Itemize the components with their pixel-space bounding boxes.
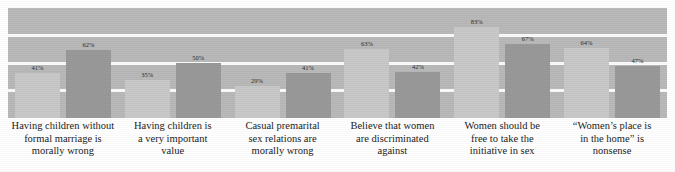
bar-g1-s0: [125, 80, 170, 119]
category-label-1: Having children isa very importantvalue: [118, 120, 228, 158]
category-label-4-line-1: free to take the: [447, 133, 557, 146]
category-label-5: “Women’s place isin the home” isnonsense: [557, 120, 667, 158]
bar-g4-s1: [505, 44, 550, 118]
category-label-2: Casual premaritalsex relations aremorall…: [228, 120, 338, 158]
bar-g3-s1: [395, 72, 440, 118]
bar-g2-s0: [235, 86, 280, 118]
bar-value-label-g5-s0: 64%: [557, 39, 617, 47]
category-label-0-line-2: morally wrong: [8, 145, 118, 158]
category-axis-labels: Having children withoutformal marriage i…: [8, 120, 667, 170]
bar-value-label-g1-s1: 50%: [168, 54, 228, 62]
category-label-1-line-0: Having children is: [118, 120, 228, 133]
category-label-0: Having children withoutformal marriage i…: [8, 120, 118, 158]
bar-chart: 41%62%35%50%29%41%63%42%83%67%64%47% Hav…: [0, 0, 675, 172]
category-label-5-line-2: nonsense: [557, 145, 667, 158]
category-label-0-line-0: Having children without: [8, 120, 118, 133]
plot-area: 41%62%35%50%29%41%63%42%83%67%64%47%: [8, 8, 667, 118]
category-label-2-line-1: sex relations are: [228, 133, 338, 146]
bar-g4-s0: [454, 27, 499, 118]
category-label-4-line-2: initiative in sex: [447, 145, 557, 158]
category-label-5-line-0: “Women’s place is: [557, 120, 667, 133]
category-label-0-line-1: formal marriage is: [8, 133, 118, 146]
category-label-3-line-2: against: [338, 145, 448, 158]
bar-g0-s0: [15, 73, 60, 118]
bar-g5-s0: [564, 48, 609, 118]
bar-value-label-g0-s0: 41%: [8, 64, 67, 72]
category-label-4-line-0: Women should be: [447, 120, 557, 133]
bar-value-label-g0-s1: 62%: [58, 41, 118, 49]
bar-value-label-g3-s0: 63%: [337, 40, 397, 48]
category-label-5-line-1: in the home” is: [557, 133, 667, 146]
bar-value-label-g5-s1: 47%: [608, 57, 667, 65]
category-label-2-line-0: Casual premarital: [228, 120, 338, 133]
bar-value-label-g2-s0: 29%: [227, 77, 287, 85]
category-label-4: Women should befree to take theinitiativ…: [447, 120, 557, 158]
bar-value-label-g4-s0: 83%: [447, 18, 507, 26]
category-label-1-line-1: a very important: [118, 133, 228, 146]
bar-value-label-g4-s1: 67%: [498, 35, 558, 43]
category-label-3-line-0: Believe that women: [338, 120, 448, 133]
bar-g0-s1: [66, 50, 111, 118]
bar-g2-s1: [286, 73, 331, 118]
category-label-3: Believe that womenare discriminatedagain…: [338, 120, 448, 158]
bar-value-label-g3-s1: 42%: [388, 63, 448, 71]
category-label-1-line-2: value: [118, 145, 228, 158]
gridline-75: [8, 34, 667, 37]
bar-g5-s1: [615, 66, 660, 118]
bar-g1-s1: [176, 63, 221, 118]
bar-g3-s0: [344, 49, 389, 118]
bar-value-label-g2-s1: 41%: [278, 64, 338, 72]
category-label-3-line-1: are discriminated: [338, 133, 448, 146]
category-label-2-line-2: morally wrong: [228, 145, 338, 158]
bar-value-label-g1-s0: 35%: [117, 71, 177, 79]
